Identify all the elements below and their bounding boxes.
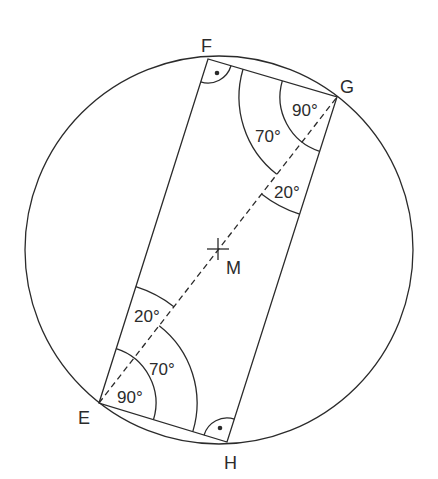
center-marker-m: [207, 238, 229, 260]
right-angle-dot-f: [215, 71, 220, 76]
circumcircle: [25, 56, 413, 444]
vertex-label-f: F: [201, 36, 212, 56]
angle-label-g-70: 70°: [255, 127, 281, 146]
diagram-canvas: F G E H M 90° 70° 20° 20° 70° 90°: [0, 0, 438, 479]
angle-label-e-70: 70°: [149, 360, 175, 379]
center-label-m: M: [226, 258, 241, 278]
right-angle-dot-h: [218, 426, 223, 431]
angle-label-g-90: 90°: [292, 101, 318, 120]
vertex-label-h: H: [224, 453, 237, 473]
geometry-figure: F G E H M 90° 70° 20° 20° 70° 90°: [0, 0, 438, 479]
angle-label-e-20: 20°: [134, 307, 160, 326]
angle-label-g-20: 20°: [274, 183, 300, 202]
vertex-label-e: E: [78, 408, 90, 428]
angle-arc-g-70: [239, 69, 277, 174]
vertex-label-g: G: [340, 77, 354, 97]
angle-label-e-90: 90°: [117, 388, 143, 407]
angle-arc-e-20: [136, 287, 174, 307]
